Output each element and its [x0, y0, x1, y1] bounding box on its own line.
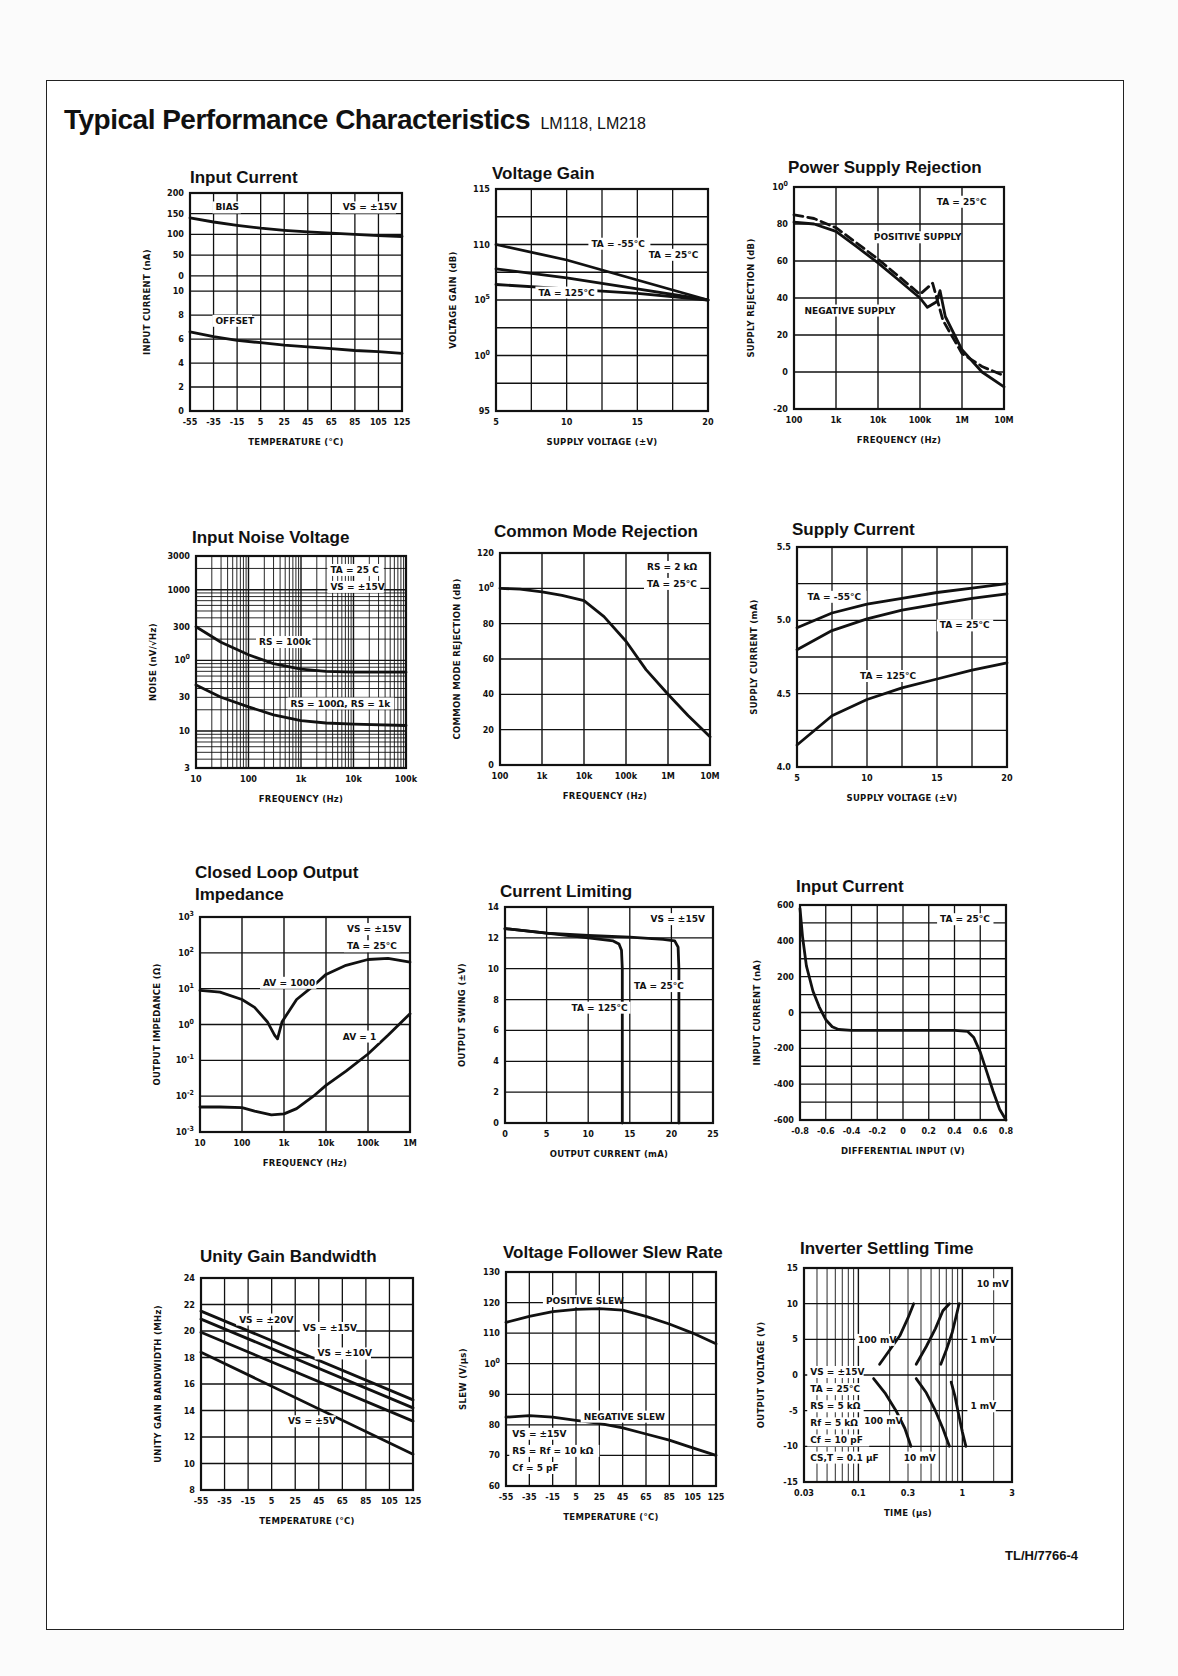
- page-frame: [46, 80, 1124, 1630]
- page-subtitle: LM118, LM218: [540, 115, 646, 132]
- page-title: Typical Performance Characteristics: [64, 104, 530, 135]
- datasheet-page: Typical Performance Characteristics LM11…: [0, 0, 1178, 1676]
- document-id: TL/H/7766-4: [1005, 1548, 1078, 1563]
- page-header: Typical Performance Characteristics LM11…: [64, 104, 646, 136]
